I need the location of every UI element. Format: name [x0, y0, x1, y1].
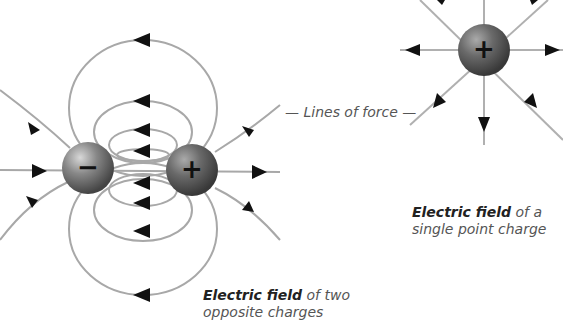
positive-symbol: +: [181, 154, 203, 184]
lines-of-force-label: — Lines of force —: [285, 104, 416, 121]
dipole-caption-rest: of two: [302, 287, 350, 303]
dipole-caption-line2: opposite charges: [203, 304, 350, 321]
negative-symbol: −: [77, 152, 99, 182]
dipole-field-lines: [0, 40, 280, 295]
single-caption-rest: of a: [511, 204, 542, 220]
dipole-caption-bold: Electric field: [203, 287, 302, 303]
single-caption-bold: Electric field: [412, 204, 511, 220]
dipole-caption: Electric field of two opposite charges: [203, 287, 350, 321]
single-caption-line2: single point charge: [412, 221, 546, 238]
single-positive-symbol: +: [473, 34, 495, 64]
single-charge-caption: Electric field of a single point charge: [412, 204, 546, 238]
field-diagram: − + +: [0, 0, 563, 327]
